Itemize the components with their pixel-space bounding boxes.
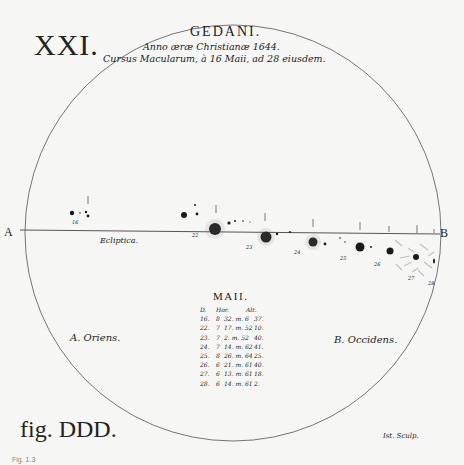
ecliptic-line [20, 230, 440, 234]
day-label-27: 27 [408, 275, 414, 281]
table-row: 27.613. m. 6118. [200, 369, 270, 378]
observation-table: D. Hor. Alt. 16.832. m. 637. 22.717. m. … [200, 305, 270, 388]
ecliptic-label: Ecliptica. [100, 236, 138, 245]
edge-label-a: A [4, 225, 13, 240]
sun-disk-drawing [0, 0, 464, 465]
edge-label-b: B [440, 226, 448, 241]
table-row: 26.621. m. 6140. [200, 360, 270, 369]
place-title: GEDANI. [190, 24, 261, 40]
west-label: B. Occidens. [334, 334, 397, 345]
subtitle-course: Cursus Macularum, à 16 Maii, ad 28 eiusd… [103, 53, 326, 64]
east-label: A. Oriens. [70, 332, 120, 343]
table-row: 16.832. m. 637. [200, 314, 270, 323]
table-row: 22.717. m. 5210. [200, 323, 270, 332]
plate-number: XXI. [34, 28, 99, 62]
table-row: 25.826. m. 6425. [200, 351, 270, 360]
sunspot-day-26 [387, 248, 394, 255]
engraver-signature: Ist. Sculp. [383, 432, 419, 440]
table-row: 28.614. m. 612. [200, 379, 270, 388]
day-label-22: 22 [192, 232, 198, 238]
day-label-25: 25 [340, 255, 346, 261]
table-header: D. Hor. Alt. [200, 305, 270, 314]
sunspot-day-16 [70, 211, 74, 215]
table-title: MAII. [213, 290, 248, 302]
figure-label: fig. DDD. [20, 416, 117, 443]
table-row: 24.714. m. 6241. [200, 342, 270, 351]
spot-halos [205, 219, 321, 250]
sunspot-day-27 [413, 254, 419, 260]
table-row: 23.72. m. 5240. [200, 333, 270, 342]
day-label-26: 26 [374, 261, 380, 267]
day-label-24: 24 [294, 249, 300, 255]
sunspot-day-28 [433, 259, 435, 264]
position-ticks [88, 196, 434, 233]
day-label-28: 28 [428, 280, 434, 286]
sunspot-day-25 [356, 243, 365, 252]
day-label-16: 16 [72, 219, 78, 225]
day-label-23: 23 [246, 244, 252, 250]
figure-caption: Fig. 1.3 [12, 456, 35, 463]
subtitle-year: Anno æræ Christianæ 1644. [143, 41, 280, 52]
